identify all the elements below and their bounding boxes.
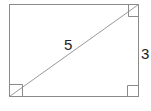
right-angle-marker-bottom-right [128, 86, 139, 97]
rectangle-diagram: 5 3 [0, 0, 151, 111]
side-length-label: 3 [141, 45, 149, 62]
diagonal-line [10, 5, 139, 97]
diagonal-length-label: 5 [64, 36, 72, 53]
